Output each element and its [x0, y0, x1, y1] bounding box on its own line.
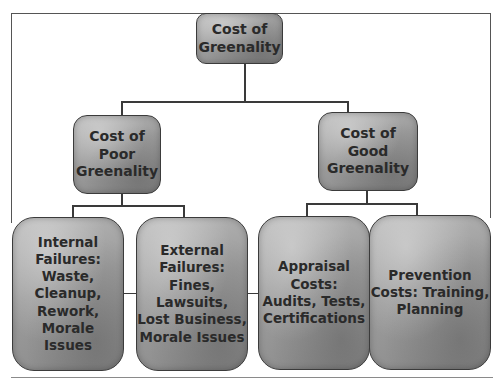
- node-label-line: Cost of: [76, 128, 158, 146]
- node-label-line: Cleanup,: [35, 285, 102, 302]
- frame-left-border: [11, 13, 12, 223]
- node-label-line: Lawsuits,: [137, 294, 247, 311]
- connector-to-appraisal: [306, 203, 308, 217]
- node-cost-of-greenality[interactable]: Cost of Greenality: [196, 13, 283, 64]
- node-internal-failures[interactable]: Internal Failures: Waste, Cleanup, Rewor…: [12, 217, 124, 371]
- connector-good-bar: [306, 203, 418, 205]
- node-label-line: Audits, Tests,: [263, 293, 366, 310]
- node-label-line: Waste,: [35, 268, 102, 285]
- node-label-line: Planning: [371, 301, 490, 318]
- node-label-line: Fines,: [137, 277, 247, 294]
- node-label-line: Certifications: [263, 310, 366, 327]
- node-label-line: Failures:: [35, 251, 102, 268]
- node-cost-of-poor-greenality[interactable]: Cost of Poor Greenality: [73, 115, 161, 194]
- node-label-line: Greenality: [76, 163, 158, 181]
- node-label-line: Greenality: [198, 39, 280, 57]
- connector-branch-bar: [121, 101, 348, 103]
- node-prevention-costs[interactable]: Prevention Costs: Training, Planning: [369, 215, 491, 370]
- node-label-line: Internal: [35, 234, 102, 251]
- connector-poor-bar: [72, 205, 185, 207]
- connector-to-poor: [121, 101, 123, 116]
- node-cost-of-good-greenality[interactable]: Cost of Good Greenality: [318, 112, 418, 191]
- node-label-line: Morale Issues: [137, 329, 247, 346]
- node-label-line: Appraisal: [263, 258, 366, 275]
- node-label-line: Greenality: [319, 160, 417, 178]
- connector-good-down: [366, 190, 368, 204]
- node-label-line: Prevention: [371, 267, 490, 284]
- node-label-line: Failures:: [137, 259, 247, 276]
- node-label-line: Cost of Good: [319, 125, 417, 161]
- node-label-line: Rework,: [35, 303, 102, 320]
- connector-root-down: [244, 63, 246, 103]
- node-label-line: Poor: [76, 146, 158, 164]
- node-label-line: Morale: [35, 320, 102, 337]
- frame-bottom-rule: [11, 377, 493, 378]
- frame-right-border: [490, 13, 491, 218]
- node-label-line: External: [137, 242, 247, 259]
- node-label-line: Lost Business,: [137, 311, 247, 328]
- node-appraisal-costs[interactable]: Appraisal Costs: Audits, Tests, Certific…: [258, 216, 370, 370]
- node-label-line: Costs: Training,: [371, 284, 490, 301]
- node-label-line: Cost of: [198, 21, 280, 39]
- node-label-line: Issues: [35, 337, 102, 354]
- connector-leaf-link-1: [123, 293, 137, 294]
- connector-poor-down: [121, 192, 123, 206]
- node-label-line: Costs:: [263, 276, 366, 293]
- node-external-failures[interactable]: External Failures: Fines, Lawsuits, Lost…: [136, 217, 248, 371]
